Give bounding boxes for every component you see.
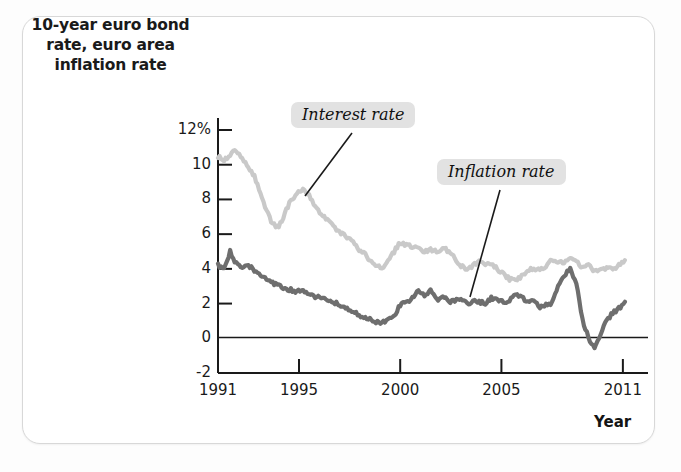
x-tick-label: 1995	[269, 381, 329, 399]
figure-root: 10-year euro bond rate, euro area inflat…	[0, 0, 681, 472]
x-tick-label: 2011	[593, 381, 653, 399]
y-tick-label: 12%	[165, 120, 211, 138]
y-tick-label: 2	[165, 294, 211, 312]
x-tick-label: 1991	[188, 381, 248, 399]
y-tick-label: 0	[165, 328, 211, 346]
y-tick-label: 6	[165, 224, 211, 242]
y-tick-label: 8	[165, 189, 211, 207]
y-tick-label: -2	[165, 363, 211, 381]
inflation-rate-leader-line	[470, 190, 500, 297]
x-tick-label: 2005	[471, 381, 531, 399]
x-tick-marks	[299, 359, 623, 373]
inflation-rate-label: Inflation rate	[437, 159, 566, 185]
y-tick-label: 10	[165, 155, 211, 173]
interest-rate-label: Interest rate	[291, 102, 415, 128]
chart-plot-area	[0, 0, 681, 472]
x-tick-label: 2000	[370, 381, 430, 399]
y-tick-label: 4	[165, 259, 211, 277]
interest-rate-leader-line	[305, 133, 352, 196]
x-axis-title: Year	[594, 413, 631, 431]
